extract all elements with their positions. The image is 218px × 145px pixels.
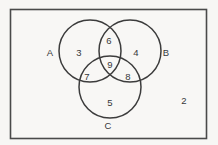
venn-diagram-canvas: A B C 3 6 4 7 9 8 5 2 (0, 0, 218, 145)
region-count-b-only: 4 (133, 47, 138, 58)
region-count-abc: 9 (107, 59, 112, 70)
venn-diagram-figure: A B C 3 6 4 7 9 8 5 2 (0, 0, 218, 145)
region-count-ac-only: 7 (84, 71, 89, 82)
region-count-a-only: 3 (76, 47, 81, 58)
set-label-a: A (47, 47, 54, 58)
set-label-c: C (105, 120, 112, 131)
region-count-c-only: 5 (107, 97, 112, 108)
region-count-bc-only: 8 (125, 71, 130, 82)
outside-region-count: 2 (181, 95, 186, 106)
set-label-b: B (163, 47, 169, 58)
region-count-ab-only: 6 (106, 35, 111, 46)
